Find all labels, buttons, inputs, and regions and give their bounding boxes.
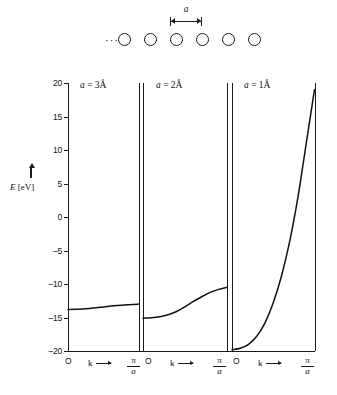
k-symbol-1: k [88,358,93,368]
k-arrow-icon-1 [96,363,111,364]
band-curves [0,0,337,395]
band-curve-a1 [232,90,315,350]
band-curve-a2 [143,287,227,318]
pi-symbol-1: π [127,356,140,366]
a-symbol-1: a [127,366,140,377]
k-arrow-icon-2 [178,363,193,364]
k-symbol-3: k [258,358,263,368]
x-max-label-1: π a [127,356,140,376]
x-origin-label-1: O [65,356,72,366]
x-variable-label-1: k [88,358,111,368]
x-variable-label-2: k [170,358,193,368]
x-origin-label-3: O [233,356,240,366]
pi-symbol-3: π [301,356,314,366]
a-symbol-2: a [213,366,226,377]
pi-symbol-2: π [213,356,226,366]
x-max-label-2: π a [213,356,226,376]
band-curve-a3 [68,304,139,309]
band-structure-figure: ··· ··· a 20 15 10 5 0 –5 [0,0,337,395]
x-origin-label-2: O [145,356,152,366]
x-max-label-3: π a [301,356,314,376]
k-symbol-2: k [170,358,175,368]
a-symbol-3: a [301,366,314,377]
k-arrow-icon-3 [266,363,281,364]
x-variable-label-3: k [258,358,281,368]
